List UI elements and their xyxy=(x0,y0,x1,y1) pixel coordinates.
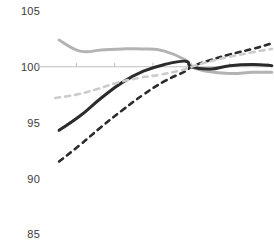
line-series-3 xyxy=(59,43,272,161)
line-chart: 105 100 95 90 85 xyxy=(0,0,274,241)
series-lines xyxy=(55,40,272,162)
line-series-1 xyxy=(59,40,272,73)
line-series-2 xyxy=(59,61,272,130)
plot-area xyxy=(0,0,274,241)
